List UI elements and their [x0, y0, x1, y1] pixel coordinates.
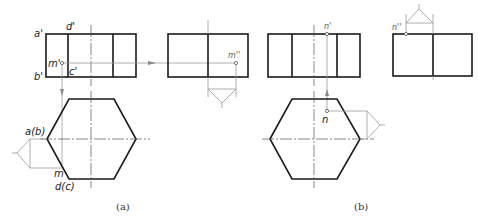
point-n-double-prime [404, 32, 407, 35]
label-a-b: a(b) [25, 126, 45, 137]
label-m: m [54, 168, 64, 179]
construction-line [208, 89, 222, 103]
label-a-prime: a' [34, 28, 43, 39]
side-view-b: n'' [392, 4, 472, 80]
label-m-prime: m' [48, 58, 61, 69]
construction-line [367, 125, 380, 139]
top-view-a: a(b) m d(c) [12, 91, 150, 192]
label-m-double-prime: m'' [228, 51, 240, 60]
construction-line [419, 9, 433, 23]
top-view-b: n [262, 91, 385, 188]
caption-b: (b) [354, 201, 368, 212]
arrow-icon [325, 89, 329, 96]
construction-line [406, 9, 419, 23]
construction-line [222, 89, 236, 103]
arrow-icon [60, 89, 64, 96]
label-n-double-prime: n'' [392, 23, 401, 32]
construction-line [17, 139, 30, 153]
point-m-prime [60, 61, 63, 64]
construction-line [17, 153, 30, 168]
point-n-prime [325, 32, 328, 35]
label-n-prime: n' [324, 22, 331, 31]
label-c-prime: c' [69, 66, 77, 77]
figure-a: a' d' b' c' m' m'' [12, 20, 248, 212]
figure-b: n' n'' [262, 4, 472, 212]
label-b-prime: b' [34, 71, 43, 82]
point-m-double-prime [234, 61, 237, 64]
point-n [325, 109, 328, 112]
label-d-prime: d' [66, 21, 75, 32]
arrow-icon [148, 61, 156, 65]
hexagonal-prism-projection-diagram: a' d' b' c' m' m'' [0, 0, 478, 220]
label-n: n [322, 114, 328, 125]
side-view-a: m'' [168, 20, 248, 108]
caption-a: (a) [116, 201, 130, 212]
front-view-a: a' d' b' c' m' [34, 21, 236, 168]
construction-line [367, 111, 380, 125]
label-d-c: d(c) [55, 181, 75, 192]
